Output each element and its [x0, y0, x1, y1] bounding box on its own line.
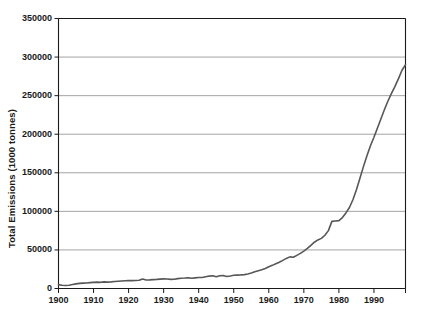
plot-canvas	[0, 0, 422, 328]
emissions-line-chart: Total Emissions (1000 tonnes) 0500001000…	[0, 0, 422, 328]
plot-background	[59, 19, 406, 289]
